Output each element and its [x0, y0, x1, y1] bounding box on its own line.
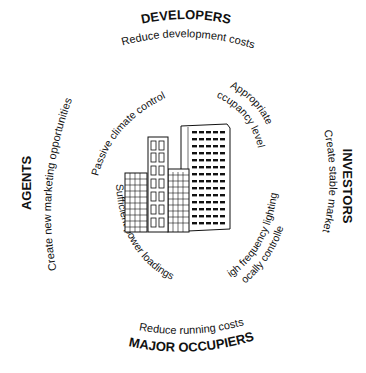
office-building-icon — [125, 124, 230, 232]
stakeholder-investors: INVESTORS Create stable market — [321, 129, 355, 235]
stakeholder-label: AGENTS — [19, 156, 34, 211]
stakeholder-label: DEVELOPERS — [140, 7, 233, 27]
tower-middle — [148, 137, 168, 232]
stakeholder-goal: Create stable market — [321, 129, 340, 235]
stakeholder-major-occupiers: Reduce running costs MAJOR OCCUPIERS — [128, 315, 256, 354]
stakeholder-goal: Reduce development costs — [120, 27, 257, 50]
stakeholder-agents: AGENTS Create new marketing opportunitie… — [19, 95, 74, 272]
stakeholder-goal: Create new marketing opportunities — [41, 95, 74, 272]
requirement-occupancy-levels: Appropriate occupancy levels — [0, 0, 276, 149]
stakeholder-developers: DEVELOPERS Reduce development costs — [120, 7, 257, 51]
stakeholder-goal: Reduce running costs — [138, 315, 245, 336]
stakeholder-diagram: DEVELOPERS Reduce development costs INVE… — [0, 0, 366, 373]
tower-left-low — [125, 173, 147, 232]
stakeholder-label: INVESTORS — [340, 149, 355, 224]
tower-right-low — [168, 169, 189, 232]
